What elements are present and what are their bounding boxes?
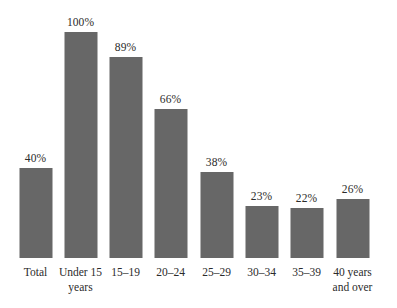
category-label: 35–39: [284, 258, 329, 280]
bar-group-under-15-years[interactable]: 100%: [64, 0, 97, 258]
bar-group-25-29[interactable]: 38%: [200, 0, 233, 258]
bar-slot: 22%: [284, 0, 329, 258]
bar-slot: 26%: [330, 0, 375, 258]
bar-rect[interactable]: [109, 57, 142, 258]
bar-group-30-34[interactable]: 23%: [245, 0, 278, 258]
bar-rect[interactable]: [245, 206, 278, 258]
category-tick-under-15-years: Under 15 years: [58, 258, 103, 294]
bar-rect[interactable]: [336, 199, 369, 258]
bar-group-35-39[interactable]: 22%: [290, 0, 323, 258]
bar-value-label: 100%: [67, 16, 94, 29]
category-tick-30-34: 30–34: [239, 258, 284, 280]
bar-slot: 100%: [58, 0, 103, 258]
bar-value-label: 22%: [296, 192, 317, 205]
category-tick-35-39: 35–39: [284, 258, 329, 280]
bar-rect[interactable]: [154, 109, 187, 258]
bar-rect[interactable]: [290, 208, 323, 258]
category-label: 25–29: [194, 258, 239, 280]
category-label: Under 15 years: [52, 258, 109, 294]
category-label: 20–24: [148, 258, 193, 280]
bar-slot: 40%: [13, 0, 58, 258]
bar-value-label: 89%: [115, 41, 136, 54]
bar-slot: 66%: [148, 0, 193, 258]
bar-rect[interactable]: [64, 32, 97, 258]
bar-chart: 40% 100% 89% 66% 38%: [0, 0, 397, 308]
bar-group-40-years-and-over[interactable]: 26%: [336, 0, 369, 258]
category-label: 15–19: [103, 258, 148, 280]
bar-group-20-24[interactable]: 66%: [154, 0, 187, 258]
bar-value-label: 38%: [206, 156, 227, 169]
category-tick-25-29: 25–29: [194, 258, 239, 280]
category-tick-15-19: 15–19: [103, 258, 148, 280]
bar-value-label: 26%: [342, 183, 363, 196]
bar-value-label: 40%: [25, 152, 46, 165]
bar-slot: 89%: [103, 0, 148, 258]
bar-rect[interactable]: [19, 168, 52, 258]
category-tick-40-years-and-over: 40 years and over: [330, 258, 375, 294]
bar-slot: 38%: [194, 0, 239, 258]
category-label: 30–34: [239, 258, 284, 280]
plot-area: 40% 100% 89% 66% 38%: [13, 0, 384, 258]
bar-rect[interactable]: [200, 172, 233, 258]
bar-slot: 23%: [239, 0, 284, 258]
bar-value-label: 23%: [251, 190, 272, 203]
bar-group-total[interactable]: 40%: [19, 0, 52, 258]
category-tick-20-24: 20–24: [148, 258, 193, 280]
bar-value-label: 66%: [160, 93, 181, 106]
bar-group-15-19[interactable]: 89%: [109, 0, 142, 258]
category-axis: Total Under 15 years 15–19 20–24 25–29: [13, 258, 384, 308]
category-label: 40 years and over: [324, 258, 381, 294]
